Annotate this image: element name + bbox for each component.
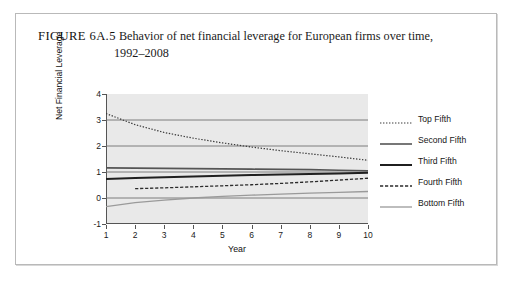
x-tick-label: 5 bbox=[214, 230, 230, 240]
figure-year-range: 1992–2008 bbox=[114, 46, 169, 60]
x-tick-label: 7 bbox=[273, 230, 289, 240]
legend-line-swatch bbox=[380, 156, 412, 166]
series-line-top-fifth bbox=[106, 114, 368, 161]
figure-number: FIGURE 6A.5 bbox=[38, 29, 116, 43]
y-tick-label: 4 bbox=[85, 89, 101, 99]
legend-label: Bottom Fifth bbox=[418, 198, 464, 208]
caption-line-1: FIGURE 6A.5 Behavior of net financial le… bbox=[38, 28, 468, 45]
y-tick-mark bbox=[102, 198, 106, 199]
x-tick-mark bbox=[164, 225, 165, 229]
x-axis-title: Year bbox=[106, 244, 368, 254]
x-tick-label: 6 bbox=[244, 230, 260, 240]
gridlines bbox=[106, 94, 368, 198]
legend-label: Top Fifth bbox=[418, 114, 451, 124]
y-axis-title: Net Financial Leverage bbox=[54, 32, 64, 120]
figure-title: Behavior of net financial leverage for E… bbox=[119, 29, 433, 43]
y-tick-label: -1 bbox=[85, 219, 101, 229]
y-tick-label: 0 bbox=[85, 193, 101, 203]
x-tick-mark bbox=[193, 225, 194, 229]
y-tick-label: 2 bbox=[85, 141, 101, 151]
y-tick-mark bbox=[102, 146, 106, 147]
x-tick-mark bbox=[222, 225, 223, 229]
legend-label: Fourth Fifth bbox=[418, 177, 462, 187]
x-tick-label: 10 bbox=[360, 230, 376, 240]
legend-line-swatch bbox=[380, 114, 412, 124]
plot-frame bbox=[106, 94, 368, 224]
x-tick-label: 1 bbox=[98, 230, 114, 240]
legend-item: Top Fifth bbox=[380, 108, 498, 129]
legend-item: Bottom Fifth bbox=[380, 192, 498, 213]
x-tick-mark bbox=[339, 225, 340, 229]
series-line-bottom-fifth bbox=[106, 192, 368, 207]
figure-panel: FIGURE 6A.5 Behavior of net financial le… bbox=[15, 13, 497, 265]
plot-svg bbox=[106, 94, 368, 224]
series-line-second-fifth bbox=[106, 168, 368, 171]
series-line-fourth-fifth bbox=[135, 178, 368, 188]
series-line-third-fifth bbox=[106, 173, 368, 179]
chart: Net Financial Leverage -101234 123456789… bbox=[68, 86, 498, 261]
series-lines bbox=[106, 114, 368, 207]
x-tick-mark bbox=[252, 225, 253, 229]
x-tick-label: 2 bbox=[127, 230, 143, 240]
legend-line-swatch bbox=[380, 198, 412, 208]
legend-label: Third Fifth bbox=[418, 156, 457, 166]
legend-item: Second Fifth bbox=[380, 129, 498, 150]
y-tick-label: 3 bbox=[85, 115, 101, 125]
x-tick-mark bbox=[310, 225, 311, 229]
x-tick-mark bbox=[368, 225, 369, 229]
x-tick-label: 4 bbox=[185, 230, 201, 240]
figure-caption: FIGURE 6A.5 Behavior of net financial le… bbox=[38, 28, 468, 62]
legend-line-swatch bbox=[380, 135, 412, 145]
x-tick-mark bbox=[281, 225, 282, 229]
chart-legend: Top FifthSecond FifthThird FifthFourth F… bbox=[380, 108, 498, 213]
x-tick-mark bbox=[135, 225, 136, 229]
x-tick-label: 8 bbox=[302, 230, 318, 240]
x-tick-label: 3 bbox=[156, 230, 172, 240]
caption-line-2: 1992–2008 bbox=[38, 45, 468, 62]
legend-item: Third Fifth bbox=[380, 150, 498, 171]
y-tick-mark bbox=[102, 172, 106, 173]
legend-line-swatch bbox=[380, 177, 412, 187]
legend-item: Fourth Fifth bbox=[380, 171, 498, 192]
x-tick-mark bbox=[106, 225, 107, 229]
x-tick-label: 9 bbox=[331, 230, 347, 240]
y-tick-mark bbox=[102, 94, 106, 95]
y-tick-label: 1 bbox=[85, 167, 101, 177]
legend-label: Second Fifth bbox=[418, 135, 466, 145]
y-tick-mark bbox=[102, 120, 106, 121]
